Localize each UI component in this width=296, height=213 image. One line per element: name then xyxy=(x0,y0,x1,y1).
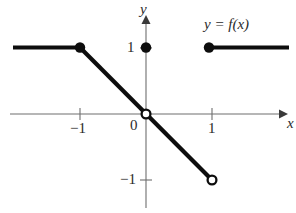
x-axis-label: x xyxy=(287,116,294,131)
open-dot-at-one-neg-one xyxy=(208,176,217,185)
x-tick-label-positive-one: 1 xyxy=(208,121,216,136)
function-graph-figure: x y −1 1 1 −1 0 y = f(x) xyxy=(0,0,296,213)
origin-label: 0 xyxy=(130,118,138,133)
open-dot-at-origin xyxy=(142,110,151,119)
closed-dot-at-zero-one xyxy=(141,42,151,52)
y-tick-label-negative-one: −1 xyxy=(120,172,136,187)
closed-dot-at-neg-one-one xyxy=(75,42,85,52)
graph-canvas xyxy=(0,0,296,213)
y-tick-label-positive-one: 1 xyxy=(127,40,135,55)
y-axis-label: y xyxy=(140,2,147,17)
legend-label: y = f(x) xyxy=(204,17,249,32)
x-tick-label-negative-one: −1 xyxy=(70,121,86,136)
